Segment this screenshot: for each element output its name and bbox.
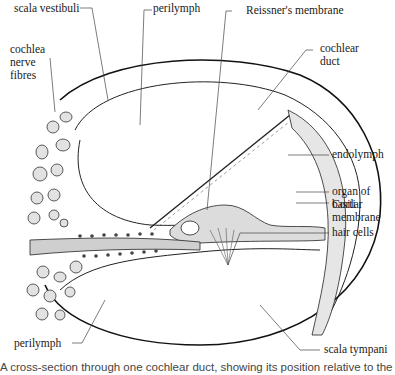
label-hair-cells: hair cells [332,226,374,239]
figure-caption: A cross-section through one cochlear duc… [0,361,395,373]
label-scala-tympani: scala tympani [324,343,388,356]
label-endolymph: endolymph [332,148,384,161]
label-perilymph-top: perilymph [153,2,200,15]
bone-cells [27,112,82,320]
label-cochlea-nerve-fibres: cochlea nerve fibres [10,43,45,82]
label-scala-vestibuli: scala vestibuli [14,2,79,15]
label-cochlear-duct: cochlear duct [320,42,359,68]
leader-lines [50,8,329,350]
label-basilar-membrane: basilar membrane [332,198,381,224]
spiral-lamina [30,238,200,255]
label-reissners-membrane: Reissner's membrane [246,4,344,17]
label-perilymph-bottom: perilymph [14,337,61,350]
